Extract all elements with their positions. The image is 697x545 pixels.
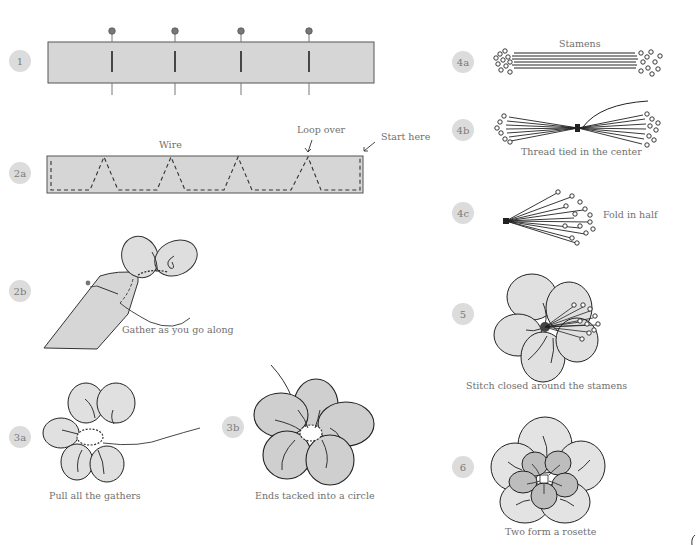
step-2a-wire-strip: [47, 140, 375, 193]
step-1-fabric-strip: [48, 28, 374, 95]
caption-pull: Pull all the gathers: [49, 490, 141, 501]
caption-rosette: Two form a rosette: [505, 526, 596, 537]
step-4a-stamens: [494, 49, 662, 76]
arrow-icon: [305, 140, 375, 152]
page-edge-mark: [692, 535, 695, 545]
step-badge-4a: 4a: [452, 51, 474, 73]
caption-stitch-closed: Stitch closed around the stamens: [466, 380, 627, 391]
step-badge-2a: 2a: [9, 162, 31, 184]
caption-fold-half: Fold in half: [603, 209, 657, 220]
bead-cluster-right: [639, 50, 662, 76]
illustration-canvas: [0, 0, 697, 545]
step-3b-flower: [254, 365, 374, 485]
caption-ends-tacked: Ends tacked into a circle: [255, 490, 375, 501]
bead-cluster-left: [494, 49, 512, 74]
step-badge-3a: 3a: [9, 426, 31, 448]
step-6-rosette: [491, 417, 605, 523]
pin-head-icon: [109, 28, 313, 35]
step-5-flower-with-stamens: [494, 274, 600, 382]
step-badge-3b: 3b: [222, 416, 244, 438]
step-badge-1: 1: [9, 50, 31, 72]
caption-start-here: Start here: [381, 131, 430, 142]
caption-gather: Gather as you go along: [122, 324, 234, 335]
step-badge-2b: 2b: [9, 280, 31, 302]
step-4c-folded-stamens: [503, 190, 595, 245]
caption-loop-over: Loop over: [297, 124, 345, 135]
caption-wire: Wire: [159, 139, 182, 150]
step-badge-5: 5: [452, 303, 474, 325]
step-badge-6: 6: [452, 456, 474, 478]
step-3a-flower: [43, 383, 200, 482]
step-badge-4b: 4b: [452, 119, 474, 141]
step-badge-4c: 4c: [452, 202, 474, 224]
step-4b-tied-stamens: [495, 101, 660, 147]
caption-stamens: Stamens: [559, 38, 601, 49]
caption-thread-tied: Thread tied in the center: [521, 146, 642, 157]
